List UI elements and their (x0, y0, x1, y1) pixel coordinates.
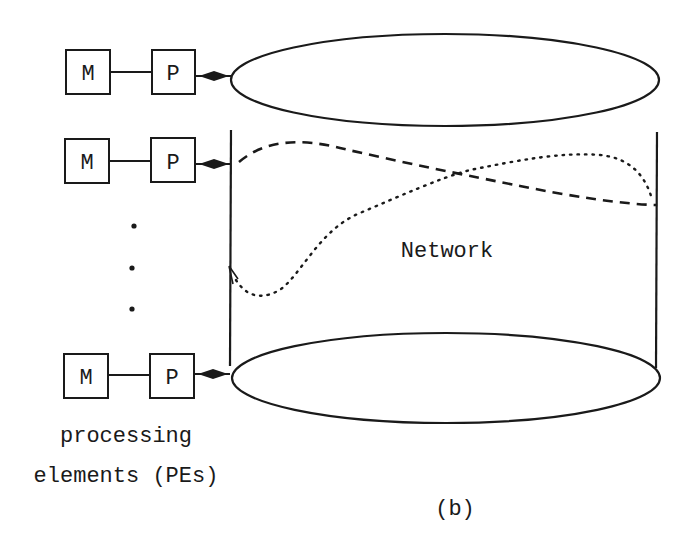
processor-label: P (165, 366, 178, 391)
processor-label: P (166, 62, 179, 87)
processing-element-3: M P (64, 354, 230, 398)
dashed-path (239, 142, 656, 205)
network-label: Network (401, 239, 493, 264)
network-cylinder: Network (230, 34, 660, 423)
processing-element-1: M P (66, 50, 231, 94)
memory-label: M (80, 151, 93, 176)
bidirectional-arrow-icon (195, 159, 231, 169)
figure-label: (b) (435, 497, 475, 522)
cylinder-left-wall (230, 130, 231, 366)
cylinder-bottom-ellipse (232, 333, 660, 423)
memory-label: M (79, 366, 92, 391)
cylinder-top-ellipse (231, 34, 659, 126)
bidirectional-arrow-icon (195, 71, 231, 81)
ellipsis-dots (129, 223, 136, 311)
memory-label: M (81, 62, 94, 87)
processor-label: P (166, 151, 179, 176)
pe-caption-line-1: processing (60, 424, 192, 449)
network-diagram: Network M P M P M (0, 0, 690, 548)
dotted-path (236, 154, 652, 295)
pe-caption-line-2: elements (PEs) (34, 464, 219, 489)
processing-element-2: M P (65, 138, 231, 183)
cylinder-right-wall (656, 132, 657, 368)
bidirectional-arrow-icon (194, 369, 230, 379)
